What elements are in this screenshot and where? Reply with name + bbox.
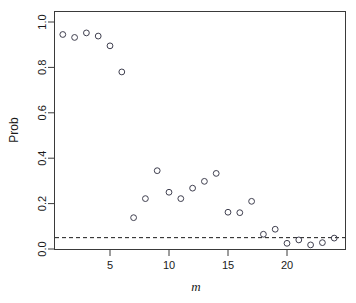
x-axis-title: m xyxy=(191,279,200,294)
y-tick-label-3: 0.6 xyxy=(36,105,48,120)
data-point xyxy=(119,69,125,75)
x-axis-tick-labels: 5 10 15 20 xyxy=(107,259,293,271)
scatter-plot: 0.0 0.2 0.4 0.6 0.8 1.0 5 10 15 20 Prob … xyxy=(0,0,356,303)
x-axis-ticks xyxy=(110,250,287,257)
data-point xyxy=(143,196,149,202)
data-point xyxy=(166,189,172,195)
data-point xyxy=(95,33,101,39)
data-point xyxy=(202,178,208,184)
data-point xyxy=(154,168,160,174)
x-tick-label-2: 15 xyxy=(222,259,234,271)
y-tick-label-5: 1.0 xyxy=(36,14,48,29)
data-point xyxy=(84,30,90,36)
y-tick-label-2: 0.4 xyxy=(36,151,48,166)
data-point xyxy=(225,209,231,215)
x-tick-label-0: 5 xyxy=(107,259,113,271)
data-point xyxy=(60,32,66,38)
y-tick-label-4: 0.8 xyxy=(36,60,48,75)
data-points-group xyxy=(60,30,337,248)
data-point xyxy=(296,237,302,243)
y-tick-label-0: 0.0 xyxy=(36,241,48,256)
data-point xyxy=(237,210,243,216)
data-point xyxy=(190,185,196,191)
y-axis-ticks xyxy=(48,22,55,249)
data-point xyxy=(320,240,326,246)
y-tick-label-1: 0.2 xyxy=(36,196,48,211)
data-point xyxy=(178,196,184,202)
x-tick-label-3: 20 xyxy=(281,259,293,271)
data-point xyxy=(249,198,255,204)
x-tick-label-1: 10 xyxy=(163,259,175,271)
figure-container: 0.0 0.2 0.4 0.6 0.8 1.0 5 10 15 20 Prob … xyxy=(0,0,356,303)
plot-frame xyxy=(55,12,346,250)
data-point xyxy=(72,35,78,41)
data-point xyxy=(261,231,267,237)
data-point xyxy=(107,43,113,49)
data-point xyxy=(213,171,219,177)
y-axis-title: Prob xyxy=(7,117,21,143)
data-point xyxy=(284,240,290,246)
y-axis-tick-labels: 0.0 0.2 0.4 0.6 0.8 1.0 xyxy=(36,14,48,256)
data-point xyxy=(131,215,137,221)
data-point xyxy=(272,226,278,232)
data-point xyxy=(308,242,314,248)
